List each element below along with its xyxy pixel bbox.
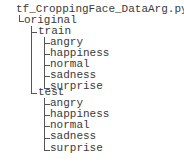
file-tree: tf_CroppingFace_DataArg.py original trai… bbox=[0, 0, 184, 164]
tree-connector bbox=[44, 98, 45, 151]
tree-connector bbox=[31, 26, 32, 93]
tree-item-test-surprise[interactable]: surprise bbox=[50, 143, 103, 154]
tree-connector bbox=[44, 37, 45, 89]
tree-item-test-sadness[interactable]: sadness bbox=[50, 131, 96, 142]
tree-connector bbox=[31, 93, 37, 94]
tree-connector bbox=[31, 32, 37, 33]
